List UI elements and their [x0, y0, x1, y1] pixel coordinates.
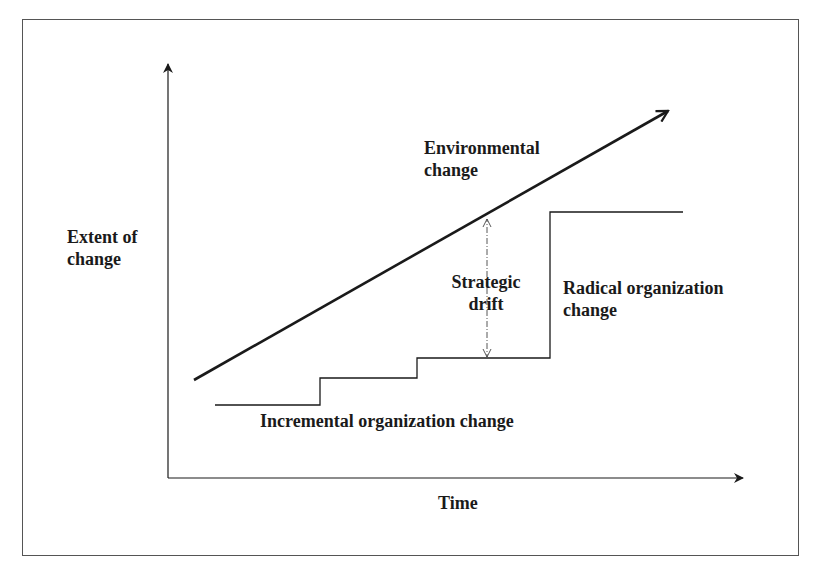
drift-label-line2: drift: [428, 293, 544, 315]
radical-label-line2: change: [563, 299, 724, 321]
drift-label-line1: Strategic: [428, 271, 544, 293]
incremental-change-label: Incremental organization change: [260, 410, 514, 432]
radical-label-line1: Radical organization: [563, 277, 724, 299]
x-axis-label-text: Time: [438, 493, 478, 513]
y-axis-label-line2: change: [67, 248, 138, 270]
y-axis-label: Extent of change: [67, 226, 138, 270]
y-axis-label-line1: Extent of: [67, 226, 138, 248]
environmental-label-line1: Environmental: [424, 137, 540, 159]
environmental-label-line2: change: [424, 159, 540, 181]
radical-change-label: Radical organization change: [563, 277, 724, 321]
x-axis-label: Time: [438, 492, 478, 514]
strategic-drift-label: Strategic drift: [428, 271, 544, 315]
environmental-change-label: Environmental change: [424, 137, 540, 181]
incremental-label-text: Incremental organization change: [260, 411, 514, 431]
